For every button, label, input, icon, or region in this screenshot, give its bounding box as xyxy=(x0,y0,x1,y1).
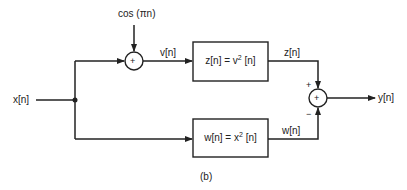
junction-dot xyxy=(73,98,78,103)
v-label: v[n] xyxy=(160,48,176,58)
input-label: x[n] xyxy=(13,95,29,105)
adder-2-plus-sign: + xyxy=(306,80,311,90)
adder-2-minus-sign: − xyxy=(306,109,311,119)
block-diagram-wires xyxy=(0,0,407,190)
block-square-v-label: z[n] = v2 [n] xyxy=(193,56,268,66)
w-label: w[n] xyxy=(282,126,300,136)
modulation-label: cos (πn) xyxy=(118,9,155,19)
adder-2-symbol: + xyxy=(314,93,319,103)
block-bottom-rhs: [n] xyxy=(243,132,257,143)
block-top-lhs: z[n] = v xyxy=(205,55,238,66)
z-label: z[n] xyxy=(284,48,300,58)
block-bottom-lhs: w[n] = x xyxy=(204,132,239,143)
block-top-rhs: [n] xyxy=(242,55,256,66)
block-square-x-label: w[n] = x2 [n] xyxy=(193,133,268,143)
adder-1-symbol: + xyxy=(130,56,135,66)
figure-caption: (b) xyxy=(200,172,212,182)
output-label: y[n] xyxy=(378,93,394,103)
